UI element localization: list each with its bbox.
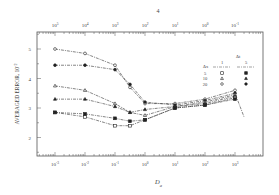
legend-row-label: 5	[204, 71, 207, 76]
x-tick-label: 102	[202, 161, 209, 167]
error-chart: 4 10-310-210-110010110210310510410310210…	[0, 0, 279, 195]
y-tick-label: 4	[29, 77, 32, 82]
legend-header: Δt	[236, 54, 241, 59]
series-line	[53, 84, 236, 116]
y-tick-label: 3	[29, 106, 32, 111]
data-series	[53, 48, 244, 128]
plot-frame	[37, 32, 263, 156]
x-tick-label: 10-2	[81, 161, 89, 167]
top-tick-label: 104	[82, 22, 89, 28]
top-tick-label: 10-1	[231, 22, 239, 28]
legend-column: 1	[221, 60, 223, 65]
y-axis-label: AVERAGED ERROR, 10-2	[13, 64, 21, 125]
legend-row-label: 10	[203, 76, 208, 81]
top-tick-label: 103	[112, 22, 119, 28]
top-tick-label: 102	[142, 22, 149, 28]
top-tick-label: 105	[52, 22, 59, 28]
legend-row-label: 20	[203, 82, 208, 87]
x-tick-label: 101	[172, 161, 179, 167]
top-tick-label: 100	[202, 22, 209, 28]
series-line	[54, 48, 237, 105]
axis-ticks: 10-310-210-11001011021031051041031021011…	[29, 22, 261, 167]
x-tick-label: 100	[142, 161, 149, 167]
y-tick-label: 2	[29, 136, 32, 141]
top-tick-label: 101	[172, 22, 179, 28]
x-axis-label: Da	[154, 178, 163, 188]
x-tick-label: 10-1	[111, 161, 119, 167]
legend: ΔtΔx1551020	[203, 54, 255, 87]
x-tick-label: 10-3	[51, 161, 59, 167]
y-tick-label: 5	[29, 47, 32, 52]
x-tick-label: 103	[232, 161, 239, 167]
page-marker: 4	[157, 8, 160, 14]
legend-column: 5	[245, 60, 248, 65]
legend-row-header: Δx	[203, 64, 209, 69]
